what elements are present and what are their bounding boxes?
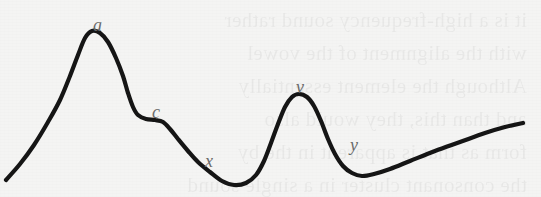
curve-plot-svg — [0, 0, 541, 197]
point-label-c: c — [152, 103, 160, 121]
point-label-v: v — [296, 78, 304, 96]
point-label-x: x — [205, 152, 213, 170]
curve-diagram-figure: it is a high-frequency sound rather with… — [0, 0, 541, 197]
point-label-y: y — [350, 136, 358, 154]
contour-curve-path — [6, 31, 523, 185]
point-label-a: a — [93, 16, 102, 34]
